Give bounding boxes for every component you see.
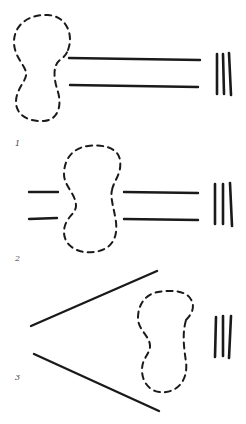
panel-1-upper-line (69, 58, 200, 60)
panel-2-right-upper-line (124, 192, 198, 193)
panel-3-bar-1 (215, 317, 216, 357)
panel-1: 1 (14, 15, 231, 148)
diagram-figure: 1 2 3 (0, 0, 246, 424)
panel-1-bar-2 (223, 54, 224, 94)
panel-2-bar-3 (230, 183, 232, 226)
panel-3: 3 (15, 271, 231, 411)
panel-1-lower-line (70, 85, 198, 87)
panel-2-dashed-blob (64, 146, 120, 253)
panel-2: 2 (14, 146, 232, 263)
panel-1-dashed-blob (14, 15, 70, 121)
panel-1-bar-3 (229, 53, 231, 95)
panel-3-lower-diverging-line (34, 354, 159, 411)
panel-1-label: 1 (15, 139, 20, 148)
panel-3-bar-3 (229, 316, 231, 358)
panel-3-label: 3 (15, 373, 20, 382)
panel-3-dashed-blob (138, 291, 193, 392)
panel-2-left-lower-line (29, 218, 57, 219)
panel-2-label: 2 (14, 254, 20, 263)
panel-2-right-lower-line (124, 219, 198, 220)
